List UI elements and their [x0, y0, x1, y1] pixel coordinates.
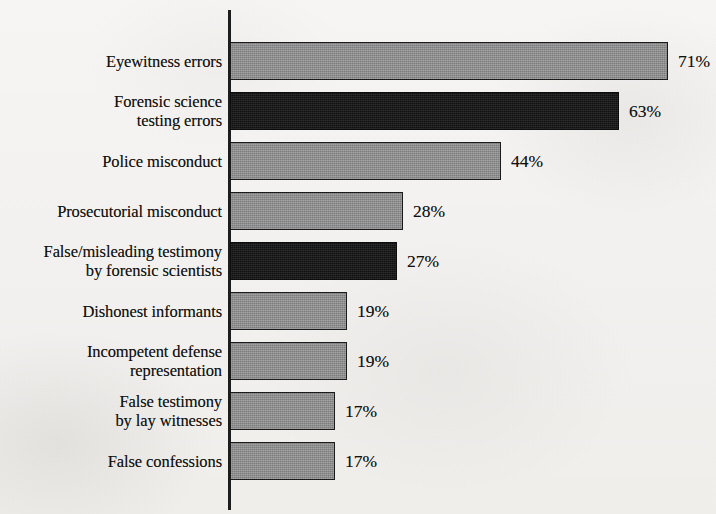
bar	[230, 292, 347, 330]
category-label: False confessions	[108, 452, 222, 471]
bar	[230, 242, 397, 280]
plot-area: Eyewitness errors71%Forensic science tes…	[0, 0, 716, 514]
category-label: False testimony by lay witnesses	[115, 392, 222, 430]
bar-row: Incompetent defense representation19%	[0, 342, 716, 380]
bar-row: Forensic science testing errors63%	[0, 92, 716, 130]
bar	[230, 342, 347, 380]
bar-value-label: 44%	[511, 152, 543, 171]
bar-value-label: 19%	[357, 302, 389, 321]
bar-value-label: 63%	[629, 102, 661, 121]
bar-row: Prosecutorial misconduct28%	[0, 192, 716, 230]
category-label: Incompetent defense representation	[87, 342, 222, 380]
bar-row: False confessions17%	[0, 442, 716, 480]
category-label: Forensic science testing errors	[114, 92, 222, 130]
category-label: Prosecutorial misconduct	[57, 202, 222, 221]
bar-row: Dishonest informants19%	[0, 292, 716, 330]
category-label: Dishonest informants	[82, 302, 222, 321]
bar-row: False/misleading testimony by forensic s…	[0, 242, 716, 280]
bar	[230, 442, 335, 480]
bar	[230, 92, 619, 130]
bar-row: Police misconduct44%	[0, 142, 716, 180]
bar-chart: Eyewitness errors71%Forensic science tes…	[0, 0, 716, 514]
category-label: Eyewitness errors	[106, 52, 222, 71]
category-label: Police misconduct	[102, 152, 222, 171]
bar-row: False testimony by lay witnesses17%	[0, 392, 716, 430]
bar	[230, 42, 668, 80]
bar	[230, 192, 403, 230]
bar-value-label: 28%	[413, 202, 445, 221]
category-label: False/misleading testimony by forensic s…	[44, 242, 222, 280]
bar-row: Eyewitness errors71%	[0, 42, 716, 80]
bar-value-label: 17%	[345, 452, 377, 471]
bar	[230, 142, 501, 180]
bar	[230, 392, 335, 430]
bar-value-label: 17%	[345, 402, 377, 421]
bar-value-label: 27%	[407, 252, 439, 271]
bar-value-label: 71%	[678, 52, 710, 71]
bar-value-label: 19%	[357, 352, 389, 371]
